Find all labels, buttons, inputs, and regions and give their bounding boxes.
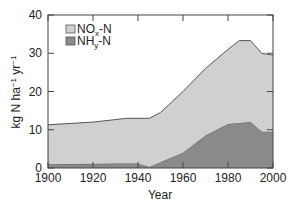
x-tick-label: 1940 xyxy=(125,171,152,185)
chart: 190019201940196019802000 010203040 Year … xyxy=(0,0,296,207)
x-tick-label: 2000 xyxy=(260,171,287,185)
legend-label-nhy: NHy-N xyxy=(77,34,111,50)
y-axis-title: kg N ha−1 yr−1 xyxy=(9,55,23,129)
x-tick-label: 1920 xyxy=(80,171,107,185)
y-tick-label: 30 xyxy=(29,46,43,60)
y-tick-labels: 010203040 xyxy=(29,8,43,175)
x-tick-label: 1980 xyxy=(215,171,242,185)
x-axis-title: Year xyxy=(148,188,172,202)
y-tick-label: 40 xyxy=(29,8,43,22)
legend-swatch-nox xyxy=(66,25,75,33)
legend-item-nhy: NHy-N xyxy=(66,34,111,50)
y-tick-label: 0 xyxy=(35,161,42,175)
y-tick-label: 10 xyxy=(29,123,43,137)
x-tick-labels: 190019201940196019802000 xyxy=(35,171,287,185)
legend-swatch-nhy xyxy=(66,37,75,45)
legend: NOx-N NHy-N xyxy=(66,22,112,50)
y-tick-label: 20 xyxy=(29,85,43,99)
plot-areas xyxy=(48,41,273,168)
x-tick-label: 1960 xyxy=(170,171,197,185)
